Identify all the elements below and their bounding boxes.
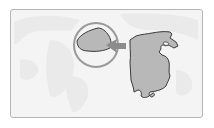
inset-region — [77, 28, 111, 51]
world-background — [14, 13, 198, 112]
main-region — [130, 32, 178, 98]
map-canvas — [0, 0, 214, 128]
coast-detail — [163, 42, 169, 45]
